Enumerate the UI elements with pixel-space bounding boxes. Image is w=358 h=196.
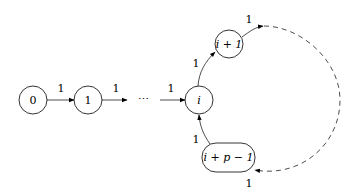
edge-i-plus-p-minus-1-i bbox=[199, 115, 210, 144]
edge-i-plus-1-arc bbox=[242, 26, 263, 37]
node-1-label: 1 bbox=[85, 94, 92, 107]
node-i-plus-p-minus-1: i + p − 1 bbox=[202, 143, 255, 172]
node-i-plus-1: i + 1 bbox=[215, 30, 243, 58]
node-1: 1 bbox=[74, 86, 102, 114]
edge-dashed-arc-label: 1 bbox=[246, 177, 253, 190]
edge-dashed-arc bbox=[255, 26, 340, 171]
edge-i-i-plus-1-label: 1 bbox=[193, 57, 200, 70]
node-0-label: 0 bbox=[30, 94, 37, 107]
edge-i-plus-p-minus-1-i-label: 1 bbox=[193, 133, 200, 146]
node-i-plus-1-label: i + 1 bbox=[216, 38, 243, 51]
node-i: i bbox=[185, 86, 213, 114]
edge-1-dots-label: 1 bbox=[113, 82, 120, 95]
node-0: 0 bbox=[19, 86, 47, 114]
edge-0-1-label: 1 bbox=[58, 82, 65, 95]
edge-i-plus-1-arc-label: 1 bbox=[246, 13, 253, 26]
node-i-label: i bbox=[197, 94, 201, 107]
edge-dots-i-label: 1 bbox=[168, 82, 175, 95]
ellipsis-node: ⋯ bbox=[138, 93, 149, 106]
diagram-canvas: 0 1 ⋯ i i + 1 i + p − 1 1 1 1 1 1 1 1 bbox=[0, 0, 358, 196]
edge-i-i-plus-1 bbox=[198, 52, 215, 86]
node-i-plus-p-minus-1-label: i + p − 1 bbox=[204, 151, 254, 164]
